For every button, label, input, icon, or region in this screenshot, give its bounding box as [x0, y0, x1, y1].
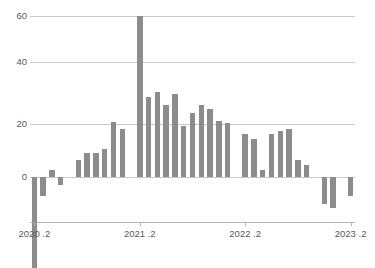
- bar: [348, 177, 353, 196]
- bar: [93, 153, 98, 177]
- bar: [49, 170, 54, 177]
- bar: [304, 165, 309, 177]
- x-axis-tick-mark: [140, 222, 141, 226]
- bar: [163, 105, 168, 177]
- y-axis-tick-label-60: 60: [3, 11, 27, 21]
- bar: [84, 153, 89, 177]
- bar: [260, 170, 265, 177]
- bar: [269, 134, 274, 177]
- x-axis-tick-label: 2023 .2: [335, 228, 367, 240]
- bar: [181, 126, 186, 177]
- bar: [172, 94, 177, 177]
- bar-series: [30, 8, 355, 222]
- bar: [199, 105, 204, 177]
- bar: [330, 177, 335, 208]
- x-axis-tick-mark: [245, 222, 246, 226]
- bar: [111, 122, 116, 177]
- x-axis-tick-label: 2021 .2: [124, 228, 156, 240]
- bar: [146, 97, 151, 178]
- bar: [295, 160, 300, 177]
- bar: [225, 123, 230, 177]
- x-axis-tick-label: 2022 .2: [229, 228, 261, 240]
- x-axis-tick-labels: 2020 .22021 .22022 .22023 .2: [0, 228, 375, 248]
- bar: [207, 109, 212, 177]
- bar: [251, 139, 256, 177]
- bar: [137, 16, 142, 177]
- bar: [242, 134, 247, 177]
- bar: [216, 121, 221, 177]
- y-axis-tick-label-20: 20: [3, 119, 27, 129]
- bar: [286, 129, 291, 177]
- bar: [102, 149, 107, 177]
- x-axis-tick-mark: [34, 222, 35, 226]
- x-axis-line: [30, 222, 355, 223]
- bar: [190, 113, 195, 177]
- plot-area: [30, 8, 355, 222]
- x-axis-tick-label: 2020 .2: [19, 228, 51, 240]
- bar: [58, 177, 63, 185]
- bar: [155, 92, 160, 177]
- bar: [76, 160, 81, 177]
- y-axis-tick-label-0: 0: [3, 172, 27, 182]
- x-axis-tick-mark: [351, 222, 352, 226]
- y-axis-tick-label-40: 40: [3, 57, 27, 67]
- y-axis-tick-labels: 60 40 20 0: [0, 8, 27, 222]
- bar: [278, 131, 283, 177]
- bar: [40, 177, 45, 196]
- bar: [120, 129, 125, 177]
- bar: [322, 177, 327, 204]
